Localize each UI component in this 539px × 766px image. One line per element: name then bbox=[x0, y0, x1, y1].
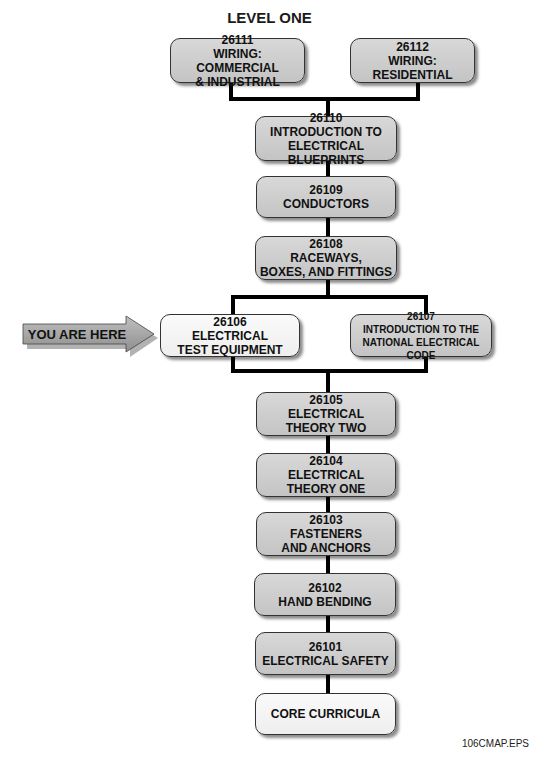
module-26107: 26107 INTRODUCTION TO THE NATIONAL ELECT… bbox=[350, 314, 492, 357]
module-26106-current: 26106 ELECTRICAL TEST EQUIPMENT bbox=[160, 314, 300, 357]
clipped-paragraph-line bbox=[0, 0, 539, 3]
module-number: 26105 bbox=[309, 393, 342, 407]
module-title-line: & INDUSTRIAL bbox=[195, 75, 280, 89]
module-title-line: ELECTRICAL bbox=[288, 407, 364, 421]
module-26101: 26101 ELECTRICAL SAFETY bbox=[255, 632, 396, 675]
module-number: 26111 bbox=[221, 33, 253, 47]
module-26104: 26104 ELECTRICAL THEORY ONE bbox=[256, 453, 396, 497]
module-title-line: CONDUCTORS bbox=[283, 197, 369, 211]
module-26109: 26109 CONDUCTORS bbox=[256, 176, 396, 218]
module-number: 26102 bbox=[308, 581, 341, 595]
module-title-line: BOXES, AND FITTINGS bbox=[260, 265, 392, 279]
module-title-line: INTRODUCTION TO THE bbox=[363, 323, 479, 336]
diagram-title: LEVEL ONE bbox=[0, 9, 539, 26]
module-number: 26110 bbox=[310, 111, 343, 125]
module-title-line: WIRING: bbox=[388, 54, 437, 68]
module-26112: 26112 WIRING: RESIDENTIAL bbox=[350, 38, 475, 83]
connector-top-horizontal bbox=[229, 97, 420, 101]
module-title-line: RESIDENTIAL bbox=[372, 68, 452, 82]
connector-branch-top bbox=[231, 295, 428, 299]
module-number: 26109 bbox=[309, 183, 342, 197]
module-26103: 26103 FASTENERS AND ANCHORS bbox=[256, 512, 396, 556]
module-title-line: FASTENERS bbox=[290, 527, 362, 541]
module-number: 26101 bbox=[309, 640, 342, 654]
module-title-line: NATIONAL ELECTRICAL CODE bbox=[351, 336, 491, 362]
module-title-line: WIRING: COMMERCIAL bbox=[171, 47, 304, 75]
module-26108: 26108 RACEWAYS, BOXES, AND FITTINGS bbox=[255, 236, 397, 280]
module-title-line: THEORY ONE bbox=[287, 482, 366, 496]
module-title-line: ELECTRICAL bbox=[288, 468, 364, 482]
module-title-line: THEORY TWO bbox=[286, 421, 367, 435]
module-26111: 26111 WIRING: COMMERCIAL & INDUSTRIAL bbox=[170, 38, 305, 83]
module-title-line: CORE CURRICULA bbox=[271, 707, 380, 721]
module-title-line: ELECTRICAL BLUEPRINTS bbox=[256, 139, 396, 167]
module-26105: 26105 ELECTRICAL THEORY TWO bbox=[256, 392, 396, 436]
module-number: 26104 bbox=[309, 454, 342, 468]
module-number: 26107 bbox=[407, 310, 435, 323]
module-title-line: TEST EQUIPMENT bbox=[177, 343, 282, 357]
module-title-line: AND ANCHORS bbox=[281, 541, 371, 555]
file-label: 106CMAP.EPS bbox=[462, 738, 529, 749]
module-number: 26108 bbox=[309, 237, 342, 251]
module-title-line: ELECTRICAL bbox=[192, 329, 268, 343]
module-number: 26106 bbox=[213, 315, 246, 329]
module-title-line: INTRODUCTION TO bbox=[270, 125, 382, 139]
you-are-here-label: YOU ARE HERE bbox=[22, 327, 132, 342]
module-core-curricula: CORE CURRICULA bbox=[255, 693, 396, 735]
module-number: 26103 bbox=[309, 513, 342, 527]
module-title-line: ELECTRICAL SAFETY bbox=[262, 654, 388, 668]
module-26102: 26102 HAND BENDING bbox=[254, 573, 396, 616]
module-number: 26112 bbox=[396, 40, 429, 54]
module-title-line: RACEWAYS, bbox=[290, 251, 362, 265]
module-26110: 26110 INTRODUCTION TO ELECTRICAL BLUEPRI… bbox=[255, 116, 397, 161]
module-title-line: HAND BENDING bbox=[278, 595, 371, 609]
